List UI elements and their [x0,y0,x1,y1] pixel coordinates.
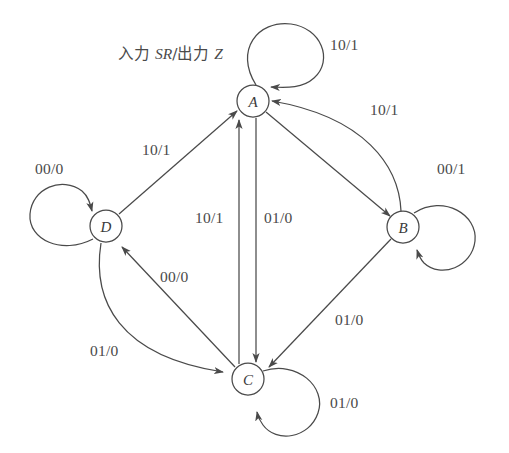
state-label-C: C [243,372,254,388]
edge-label-B-A: 10/1 [370,101,398,119]
state-label-B: B [398,220,407,236]
state-label-D: D [100,219,112,235]
edge-A-B [266,112,390,216]
edge-A-A-self-loop [248,24,324,88]
io-legend-input-prefix: 入力 [118,45,155,63]
edge-label-A-A: 10/1 [330,36,358,54]
edge-label-A-C: 01/0 [264,209,292,227]
io-legend-caption: 入力 SR/出力 Z [118,41,223,63]
state-label-A: A [247,94,258,110]
edge-label-C-D: 00/0 [160,268,188,286]
edge-B-B-self-loop [414,206,475,271]
edge-label-D-D: 00/0 [35,160,63,178]
edge-label-D-A: 10/1 [142,141,170,159]
state-node-C[interactable]: C [232,363,264,395]
fsm-graph-canvas: A B C D [0,0,509,453]
edge-D-D-self-loop [30,184,93,245]
edge-label-D-C: 01/0 [90,342,118,360]
state-transition-diagram: A B C D 入力 SR/出力 Z 10/1 00/1 01/0 00/0 1… [0,0,509,453]
edge-label-C-C: 01/0 [330,394,358,412]
edge-B-C [269,239,391,367]
edge-label-B-C: 01/0 [335,311,363,329]
edge-D-A [119,111,237,214]
state-node-D[interactable]: D [90,210,122,242]
edge-label-B-B: 00/1 [437,160,465,178]
io-legend-separator: /出力 [172,45,214,63]
edge-C-C-self-loop [257,368,320,436]
state-node-B[interactable]: B [387,211,419,243]
edge-label-C-A: 10/1 [195,209,223,227]
edge-C-D [122,247,235,367]
io-legend-output-signal: Z [214,45,223,62]
io-legend-input-signals: SR [155,45,172,62]
state-node-A[interactable]: A [237,85,269,117]
